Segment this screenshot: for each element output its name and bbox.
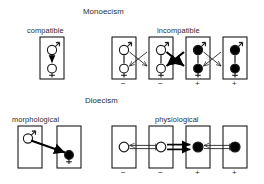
group-label-incompatible: incompatible — [157, 27, 200, 34]
group-label-compatible: compatible — [27, 27, 64, 34]
circle-symbol-filled — [193, 142, 203, 152]
sign-mono-incompat-2: − — [158, 80, 163, 88]
group-label-physiological: physiological — [155, 116, 199, 123]
sign-dio-phys-2: − — [158, 169, 163, 177]
box-dio-morph-2 — [57, 126, 81, 168]
sign-mono-incompat-4: + — [232, 80, 237, 88]
circle-symbol-open — [119, 142, 129, 152]
box-dio-morph-1 — [18, 126, 42, 168]
group-label-morphological: morphological — [12, 116, 59, 123]
sign-mono-incompat-3: + — [195, 80, 200, 88]
box-dio-phys-1 — [112, 126, 136, 168]
sign-dio-phys-1: − — [121, 169, 126, 177]
section-title-monoecism: Monoecism — [83, 8, 124, 16]
circle-symbol-filled — [230, 142, 240, 152]
box-mono-compat-1 — [40, 37, 64, 79]
box-mono-incompat-3 — [186, 37, 210, 79]
sign-mono-incompat-1: − — [121, 80, 126, 88]
circle-symbol-open — [156, 142, 166, 152]
section-title-dioecism: Dioecism — [85, 97, 118, 105]
box-dio-phys-3 — [186, 126, 210, 168]
box-mono-incompat-2 — [149, 37, 173, 79]
box-dio-phys-2 — [149, 126, 173, 168]
box-mono-incompat-4 — [223, 37, 247, 79]
box-dio-phys-4 — [223, 126, 247, 168]
figure-canvas: Monoecism compatible incompatible Dioeci… — [0, 0, 264, 184]
box-mono-incompat-1 — [112, 37, 136, 79]
sign-dio-phys-3: + — [195, 169, 200, 177]
sign-dio-phys-4: + — [232, 169, 237, 177]
